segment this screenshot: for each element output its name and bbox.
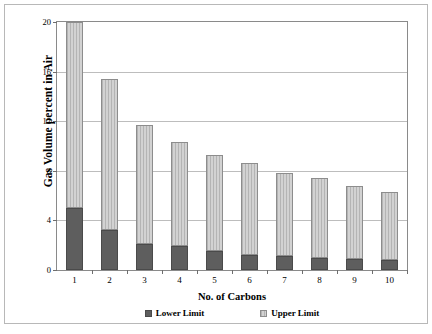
bar-group[interactable] [346,22,363,270]
bar-segment-upper-limit[interactable] [66,22,83,208]
legend-swatch-icon [145,310,152,317]
chart-legend: Lower LimitUpper Limit [56,308,408,318]
bar-segment-upper-limit[interactable] [101,79,118,230]
y-tick-label: 4 [47,215,51,225]
y-tick-mark [53,121,57,122]
x-tick-mark [407,270,408,274]
bar-segment-upper-limit[interactable] [171,142,188,246]
y-tick-label: 12 [43,116,52,126]
x-tick-mark [92,270,93,274]
bar-segment-upper-limit[interactable] [346,186,363,259]
x-tick-mark [127,270,128,274]
x-axis-title: No. of Carbons [56,291,408,302]
bar-group[interactable] [241,22,258,270]
y-tick-mark [53,22,57,23]
x-tick-mark [337,270,338,274]
x-tick-label: 7 [282,275,287,285]
bar-segment-lower-limit[interactable] [241,255,258,270]
legend-item[interactable]: Lower Limit [145,308,205,318]
legend-item[interactable]: Upper Limit [260,308,319,318]
y-tick-label: 8 [47,166,51,176]
y-tick-mark [53,72,57,73]
x-tick-mark [232,270,233,274]
bar-segment-upper-limit[interactable] [206,155,223,252]
x-tick-label: 1 [72,275,77,285]
x-tick-label: 4 [177,275,182,285]
legend-label: Lower Limit [156,308,205,318]
x-tick-label: 3 [142,275,147,285]
bar-segment-lower-limit[interactable] [101,230,118,270]
x-tick-label: 9 [352,275,357,285]
x-tick-label: 6 [247,275,252,285]
x-tick-mark [197,270,198,274]
y-tick-mark [53,270,57,271]
bar-segment-upper-limit[interactable] [136,125,153,244]
x-tick-mark [162,270,163,274]
bar-segment-lower-limit[interactable] [311,258,328,270]
chart-page: Gas Volume percent in Air 04812162012345… [0,0,432,334]
bar-segment-lower-limit[interactable] [171,246,188,270]
y-tick-mark [53,171,57,172]
bar-group[interactable] [171,22,188,270]
legend-swatch-icon [260,310,267,317]
bar-group[interactable] [206,22,223,270]
x-tick-mark [267,270,268,274]
x-tick-label: 10 [385,275,394,285]
legend-label: Upper Limit [271,308,319,318]
x-tick-label: 2 [107,275,112,285]
bar-segment-lower-limit[interactable] [381,260,398,270]
bar-segment-upper-limit[interactable] [241,163,258,255]
bar-segment-upper-limit[interactable] [311,178,328,257]
bar-segment-lower-limit[interactable] [346,259,363,270]
y-tick-label: 0 [47,265,51,275]
x-tick-label: 5 [212,275,217,285]
bar-group[interactable] [136,22,153,270]
bar-group[interactable] [381,22,398,270]
y-tick-label: 20 [43,17,52,27]
bar-group[interactable] [276,22,293,270]
x-tick-label: 8 [317,275,322,285]
bar-segment-upper-limit[interactable] [381,192,398,260]
plot-area: 04812162012345678910 [56,21,408,271]
bar-group[interactable] [66,22,83,270]
y-tick-label: 16 [43,67,52,77]
bar-segment-upper-limit[interactable] [276,173,293,257]
bar-segment-lower-limit[interactable] [66,208,83,270]
bar-group[interactable] [311,22,328,270]
x-tick-mark [302,270,303,274]
y-tick-mark [53,220,57,221]
bar-group[interactable] [101,22,118,270]
bar-segment-lower-limit[interactable] [136,244,153,270]
bar-segment-lower-limit[interactable] [206,251,223,270]
x-tick-mark [372,270,373,274]
bar-segment-lower-limit[interactable] [276,256,293,270]
